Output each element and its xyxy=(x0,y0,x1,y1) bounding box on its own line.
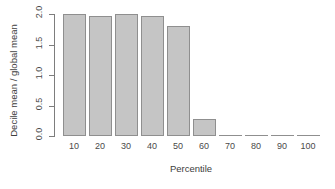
x-axis-tick-label: 50 xyxy=(167,141,190,151)
x-axis-tick-label: 30 xyxy=(115,141,138,151)
bar xyxy=(245,135,268,136)
bar xyxy=(297,135,320,136)
y-axis-tick-label-text: 0.0 xyxy=(35,128,45,141)
bar xyxy=(141,16,164,136)
y-axis-tick xyxy=(49,75,55,76)
y-axis-tick-label-text: 2.0 xyxy=(35,6,45,19)
y-axis-tick-label: 1.5 xyxy=(0,38,46,48)
x-axis-tick-label: 60 xyxy=(193,141,216,151)
x-axis-tick-label: 100 xyxy=(297,141,320,151)
y-axis-tick-label-text: 1.5 xyxy=(35,36,45,49)
bar xyxy=(167,26,190,136)
plot-area xyxy=(61,14,321,136)
y-axis-tick-label: 2.0 xyxy=(0,7,46,17)
bar xyxy=(271,135,294,136)
y-axis-tick xyxy=(49,106,55,107)
x-axis-title: Percentile xyxy=(61,163,321,174)
y-axis-tick-label-text: 1.0 xyxy=(35,67,45,80)
x-axis-tick-label: 10 xyxy=(63,141,86,151)
bar xyxy=(89,16,112,136)
bar-chart-figure: Decile mean / global mean 0.00.51.01.52.… xyxy=(0,0,335,189)
x-axis-tick-label: 90 xyxy=(271,141,294,151)
x-axis-tick-label: 40 xyxy=(141,141,164,151)
bar xyxy=(193,119,216,136)
bar xyxy=(63,14,86,136)
y-axis-tick xyxy=(49,14,55,15)
bar xyxy=(115,14,138,136)
x-axis-tick-label: 80 xyxy=(245,141,268,151)
y-axis-tick xyxy=(49,45,55,46)
y-axis-tick-label-text: 0.5 xyxy=(35,97,45,110)
bar xyxy=(219,135,242,136)
y-axis-tick-label: 0.0 xyxy=(0,129,46,139)
y-axis-tick xyxy=(49,136,55,137)
x-axis-tick-label: 70 xyxy=(219,141,242,151)
y-axis-tick-label: 0.5 xyxy=(0,99,46,109)
y-axis-tick-label: 1.0 xyxy=(0,68,46,78)
x-axis-tick-label: 20 xyxy=(89,141,112,151)
